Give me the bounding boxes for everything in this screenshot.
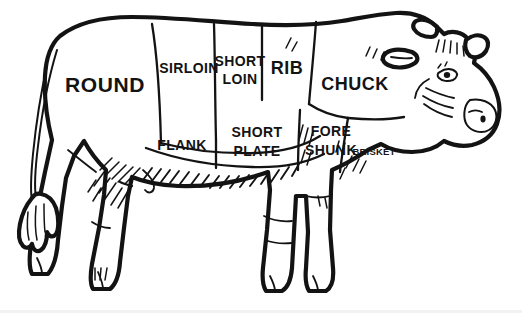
cut-label-chuck: CHUCK [321, 74, 389, 94]
horn-left [413, 20, 437, 37]
horn-right [465, 35, 488, 57]
cut-label-fore-shunk-line1: FORE [311, 123, 352, 139]
beef-cuts-diagram: ROUND SIRLOIN SHORT LOIN RIB CHUCK FLANK… [0, 0, 522, 317]
forelock-5 [463, 46, 464, 56]
cut-label-fore-shunk-line2: SHUNK [305, 142, 357, 158]
cut-label-flank: FLANK [157, 137, 206, 153]
cut-label-short-loin-line1: SHORT [215, 53, 266, 69]
eye-pupil [444, 72, 450, 78]
cut-label-short-loin-line2: LOIN [222, 71, 257, 87]
cut-label-short-plate-line2: PLATE [234, 143, 281, 159]
cow-illustration: ROUND SIRLOIN SHORT LOIN RIB CHUCK FLANK… [0, 0, 522, 317]
cut-label-rib: RIB [271, 58, 304, 78]
nostril [480, 116, 485, 123]
forelock-3 [450, 41, 451, 53]
cut-label-brisket: BRISKET [352, 146, 395, 157]
base-band [0, 310, 522, 313]
cut-label-round: ROUND [65, 73, 145, 96]
cut-label-short-plate-line1: SHORT [232, 124, 283, 140]
cut-label-sirloin: SIRLOIN [159, 60, 219, 76]
